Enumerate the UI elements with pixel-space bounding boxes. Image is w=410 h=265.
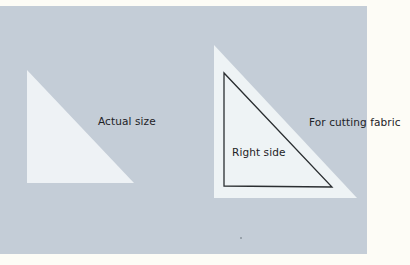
triangle-template-illustration — [0, 0, 410, 265]
for-cutting-fabric-label: For cutting fabric — [309, 116, 401, 128]
actual-size-label: Actual size — [98, 115, 156, 127]
print-speck — [240, 237, 242, 239]
right-side-label: Right side — [232, 146, 286, 158]
